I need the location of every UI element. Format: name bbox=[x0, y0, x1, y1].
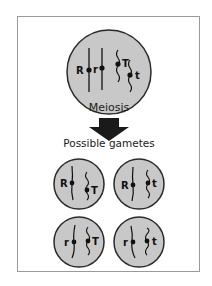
svg-text:T: T bbox=[91, 185, 98, 196]
gamete-rT: r T bbox=[54, 217, 104, 267]
allele-R: R bbox=[76, 65, 84, 76]
gamete-Rt: R t bbox=[114, 159, 164, 209]
svg-text:R: R bbox=[121, 180, 129, 191]
svg-text:r: r bbox=[64, 237, 69, 248]
allele-r: r bbox=[93, 64, 98, 75]
gamete-RT: R T bbox=[54, 159, 104, 209]
svg-text:R: R bbox=[60, 178, 68, 189]
allele-t: t bbox=[135, 70, 140, 81]
svg-text:t: t bbox=[152, 236, 157, 247]
svg-text:r: r bbox=[123, 237, 128, 248]
svg-text:T: T bbox=[92, 236, 99, 247]
gametes-label: Possible gametes bbox=[40, 137, 178, 149]
gamete-rt: r t bbox=[114, 217, 164, 267]
svg-text:t: t bbox=[152, 178, 157, 189]
process-label: Meiosis bbox=[70, 101, 148, 114]
